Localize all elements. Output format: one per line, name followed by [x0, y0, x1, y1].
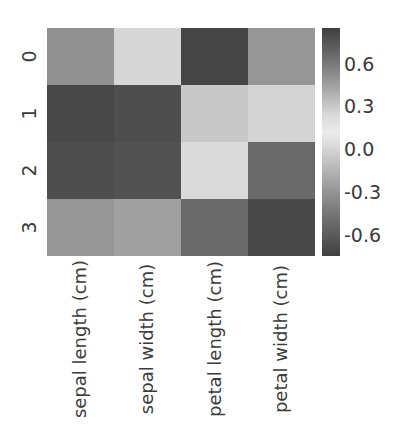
colorbar-tick-label: 0.3 — [344, 97, 374, 116]
heatmap-figure: 0 1 2 3 0.60.30.0-0.3-0.6 sepal length (… — [0, 0, 409, 438]
y-tick-label: 0 — [20, 50, 39, 62]
heatmap-cell — [181, 28, 248, 85]
colorbar-tick-label: 0.0 — [344, 140, 374, 159]
y-tick-3: 3 — [14, 199, 44, 256]
x-tick-label: sepal width (cm) — [139, 264, 157, 414]
x-tick-label: sepal length (cm) — [72, 260, 90, 418]
heatmap-cell — [47, 85, 114, 142]
y-tick-1: 1 — [14, 85, 44, 142]
x-tick-1: sepal width (cm) — [114, 262, 181, 434]
heatmap-cell — [114, 142, 181, 199]
heatmap-cell — [181, 199, 248, 256]
heatmap-cell — [47, 142, 114, 199]
colorbar-tick-labels: 0.60.30.0-0.3-0.6 — [344, 28, 406, 256]
heatmap-cell — [181, 142, 248, 199]
heatmap-cell — [114, 28, 181, 85]
colorbar-tick-label: -0.6 — [344, 225, 381, 244]
colorbar — [322, 28, 340, 256]
heatmap-grid — [47, 28, 315, 256]
heatmap-cell — [248, 199, 315, 256]
heatmap-cell — [47, 28, 114, 85]
x-tick-3: petal width (cm) — [248, 262, 315, 434]
x-axis-tick-labels: sepal length (cm) sepal width (cm) petal… — [47, 262, 315, 434]
colorbar-gradient — [322, 28, 340, 256]
y-tick-label: 1 — [20, 107, 39, 119]
heatmap-cell — [248, 142, 315, 199]
y-tick-2: 2 — [14, 142, 44, 199]
x-tick-label: petal length (cm) — [206, 261, 224, 417]
heatmap-cell — [114, 199, 181, 256]
x-tick-2: petal length (cm) — [181, 262, 248, 434]
heatmap-cell — [47, 199, 114, 256]
heatmap-cell — [114, 85, 181, 142]
x-tick-label: petal width (cm) — [273, 265, 291, 413]
y-tick-0: 0 — [14, 28, 44, 85]
colorbar-tick-label: -0.3 — [344, 182, 381, 201]
x-tick-0: sepal length (cm) — [47, 262, 114, 434]
y-tick-label: 2 — [20, 164, 39, 176]
heatmap-cell — [248, 85, 315, 142]
heatmap-cell — [181, 85, 248, 142]
colorbar-tick-label: 0.6 — [344, 54, 374, 73]
heatmap-cell — [248, 28, 315, 85]
y-tick-label: 3 — [20, 221, 39, 233]
y-axis-tick-labels: 0 1 2 3 — [14, 28, 44, 256]
